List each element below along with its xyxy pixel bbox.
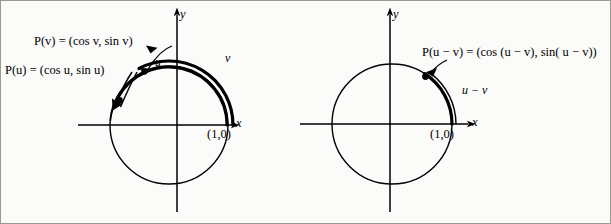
right-origin-point-label: (1,0): [430, 128, 454, 141]
left-point-v-label: P(v) = (cos v, sin v): [34, 35, 133, 48]
left-x-axis-label: x: [236, 117, 242, 130]
left-arc-v-label: v: [225, 52, 230, 64]
left-point-v-dot: [141, 68, 147, 74]
left-arc-u-label: u: [155, 56, 161, 68]
left-pointer-v-head: [146, 46, 158, 54]
right-y-axis-label: y: [393, 8, 399, 21]
right-x-axis-label: x: [472, 116, 478, 129]
right-point-label: P(u − v) = (cos (u − v), sin( u − v)): [422, 46, 597, 59]
left-origin-point-label: (1,0): [207, 128, 231, 141]
right-arc-u-minus-v: [425, 74, 452, 124]
left-y-axis-label: y: [180, 8, 186, 21]
right-point-dot: [422, 73, 429, 80]
left-point-u-label: P(u) = (cos u, sin u): [5, 64, 104, 77]
right-arc-label: u − v: [462, 84, 487, 96]
figure-container: P(v) = (cos v, sin v) P(u) = (cos u, sin…: [0, 0, 611, 224]
